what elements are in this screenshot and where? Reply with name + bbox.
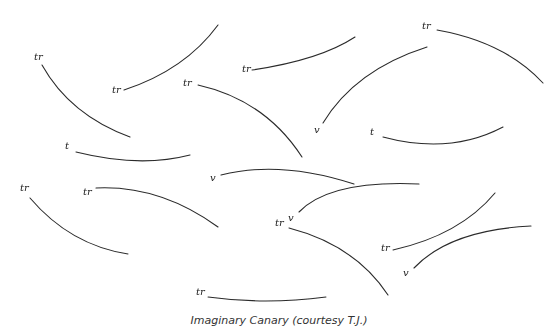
phrase-label: t [370,126,375,137]
song-phrase: tr [275,217,388,295]
phrase-curve [252,37,355,70]
phrase-curve [383,127,503,144]
phrase-curve [414,226,531,268]
phrase-label: v [314,124,320,135]
phrase-label: tr [242,63,252,74]
phrase-curve [76,152,190,161]
song-phrase: tr [183,77,302,157]
phrase-curve [299,184,419,212]
phrase-label: tr [422,20,432,31]
song-phrase: v [288,184,419,223]
phrase-label: tr [34,51,44,62]
phrase-label: tr [196,286,206,297]
figure-caption: Imaginary Canary (courtesy T.J.) [0,314,558,327]
song-phrase: tr [196,286,326,301]
phrase-curve [437,30,543,83]
phrase-curve [42,65,130,137]
phrase-label: v [288,212,294,223]
song-phrase: t [65,140,190,161]
phrase-curve [221,169,354,184]
phrase-label: tr [183,77,193,88]
canary-song-figure: trtrtrtrtrvttvtrtrtrvtrvtr [0,0,558,336]
phrase-label: tr [381,242,391,253]
phrase-label: tr [20,182,30,193]
phrase-curve [124,25,218,90]
phrase-label: tr [83,186,93,197]
phrase-label: v [403,267,409,278]
song-phrase: tr [20,182,128,254]
phrase-label: t [65,140,70,151]
song-phrase: tr [381,193,495,253]
song-phrase: t [370,126,503,144]
song-phrase: tr [83,186,218,227]
song-phrase: tr [242,37,355,74]
phrase-label: tr [112,84,122,95]
song-phrase: v [403,226,531,278]
phrase-label: v [210,172,216,183]
phrase-curve [198,85,302,157]
phrase-curve [96,188,218,227]
phrase-curve [30,198,128,254]
phrase-curve [289,228,388,295]
phrase-curve [393,193,495,250]
phrase-curve [323,47,427,123]
song-phrase: tr [112,25,218,95]
song-phrases: trtrtrtrtrvttvtrtrtrvtrvtr [20,20,543,301]
song-phrase: tr [422,20,543,83]
song-phrase: v [314,47,427,135]
phrase-curve [208,297,326,301]
song-phrase: v [210,169,354,184]
phrase-label: tr [275,217,285,228]
